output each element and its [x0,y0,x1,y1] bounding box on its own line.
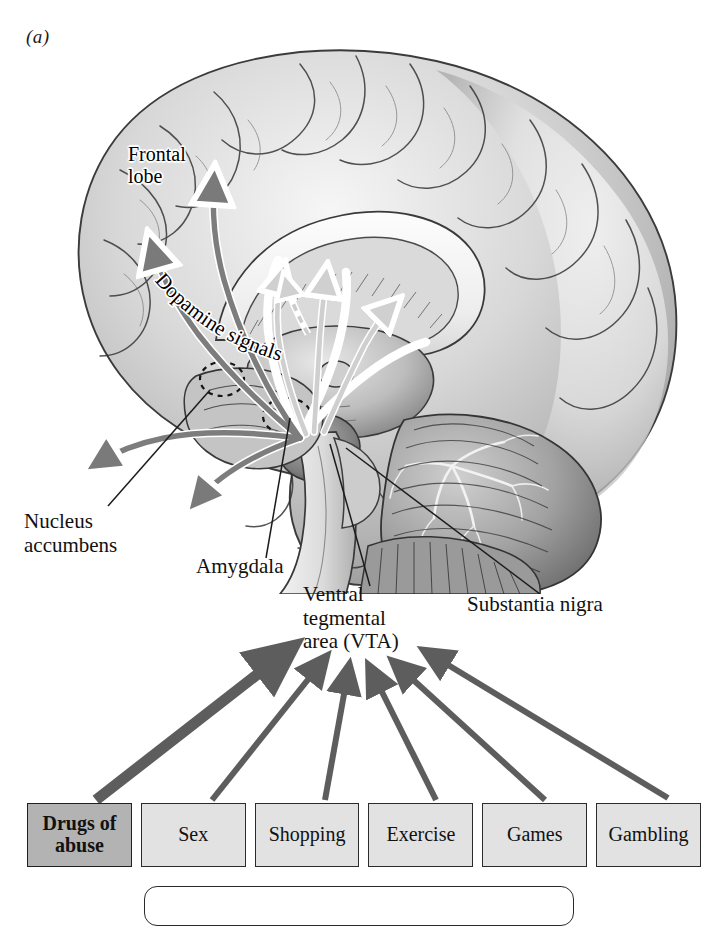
bottom-rounded-panel [144,886,574,926]
stimulus-box-games[interactable]: Games [482,803,587,867]
ventral-tegmental-area-label: Ventral tegmental area (VTA) [303,583,399,654]
nucleus-accumbens-label: Nucleus accumbens [24,510,117,557]
arrow-gambling [430,654,668,798]
arrow-shopping [325,672,348,800]
stimulus-box-sex[interactable]: Sex [141,803,246,867]
stimulus-box-row: Drugs of abuse Sex Shopping Exercise Gam… [27,803,701,867]
stimulus-box-drugs-of-abuse[interactable]: Drugs of abuse [27,803,132,867]
stimulus-box-gambling[interactable]: Gambling [596,803,701,867]
substantia-nigra-label: Substantia nigra [467,593,603,617]
arrow-games [398,666,545,800]
frontal-lobe-label: Frontal lobe [128,143,186,188]
arrow-drugs-of-abuse [96,652,286,800]
arrow-sex [212,662,322,800]
arrow-exercise [372,672,436,800]
amygdala-label: Amygdala [196,555,283,579]
stimulus-box-exercise[interactable]: Exercise [368,803,473,867]
stimulus-box-shopping[interactable]: Shopping [255,803,360,867]
